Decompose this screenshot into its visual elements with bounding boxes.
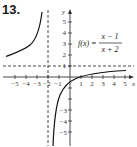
left-branch-curve bbox=[6, 12, 42, 57]
x-tick-label: −2 bbox=[43, 80, 51, 88]
function-numerator: x − 1 bbox=[101, 32, 119, 41]
y-tick-label: 2 bbox=[63, 51, 67, 59]
x-tick-label: 1 bbox=[79, 80, 83, 88]
y-tick-label: −3 bbox=[60, 107, 68, 115]
x-tick-label: −5 bbox=[11, 80, 19, 88]
x-tick-label: −4 bbox=[22, 80, 30, 88]
x-tick-label: 3 bbox=[101, 80, 105, 88]
y-axis-arrow-icon bbox=[68, 9, 72, 14]
function-label: f(x) = bbox=[78, 39, 97, 48]
y-tick-label: 3 bbox=[63, 40, 67, 48]
x-axis-label: x bbox=[131, 80, 136, 88]
x-axis-arrow-icon bbox=[129, 75, 134, 79]
y-tick-label: 1 bbox=[63, 62, 67, 70]
x-tick-label: 2 bbox=[90, 80, 94, 88]
x-tick-label: 4 bbox=[112, 80, 116, 88]
y-axis-label: y bbox=[61, 8, 66, 16]
x-tick-label: 5 bbox=[123, 80, 127, 88]
y-tick-label: −4 bbox=[60, 118, 68, 126]
y-tick-label: 4 bbox=[63, 29, 67, 37]
y-tick-label: −5 bbox=[60, 129, 68, 137]
x-tick-label: −3 bbox=[33, 80, 41, 88]
function-graph: −5 −4 −3 −2 −1 1 2 3 4 5 x 5 4 3 2 1 −3 … bbox=[0, 0, 137, 147]
function-denominator: x + 2 bbox=[101, 45, 119, 54]
y-tick-label: 5 bbox=[63, 18, 67, 26]
x-tick-label: −1 bbox=[54, 80, 62, 88]
